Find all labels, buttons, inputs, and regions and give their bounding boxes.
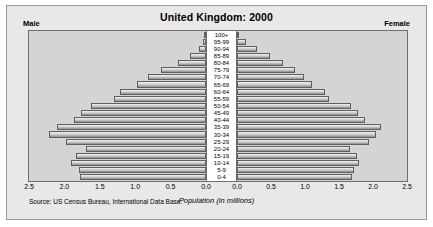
bar-female-10-14 <box>237 160 359 166</box>
x-tick-female-0.0: 0.0 <box>232 183 242 190</box>
pyramid-row: 65-69 <box>29 81 407 88</box>
bar-male-45-49 <box>81 110 206 116</box>
pyramid-row: 75-79 <box>29 67 407 74</box>
pyramid-row: 100+ <box>29 31 407 38</box>
age-group-label: 5-9 <box>206 167 237 173</box>
bar-male-35-39 <box>57 124 206 130</box>
pyramid-row: 90-94 <box>29 45 407 52</box>
pyramid-row: 50-54 <box>29 102 407 109</box>
bar-male-40-44 <box>74 117 206 123</box>
age-group-label: 50-54 <box>206 103 237 109</box>
screenshot-root: United Kingdom: 2000 Male Female 100+95-… <box>0 0 433 227</box>
age-group-label: 80-84 <box>206 60 237 66</box>
legend-label-female: Female <box>384 19 410 28</box>
bar-female-80-84 <box>237 60 283 66</box>
bar-female-5-9 <box>237 167 354 173</box>
age-group-label: 55-59 <box>206 96 237 102</box>
bar-male-50-54 <box>91 103 206 109</box>
legend-label-male: Male <box>23 19 40 28</box>
bar-female-70-74 <box>237 74 304 80</box>
bar-female-60-64 <box>237 89 325 95</box>
x-tick-male-2.0: 2.0 <box>60 183 70 190</box>
x-tick-female-1.0: 1.0 <box>300 183 310 190</box>
bar-male-25-29 <box>66 139 206 145</box>
bar-male-15-19 <box>76 153 206 159</box>
bar-female-50-54 <box>237 103 351 109</box>
pyramid-row: 45-49 <box>29 110 407 117</box>
age-group-label: 20-24 <box>206 146 237 152</box>
age-group-label: 25-29 <box>206 139 237 145</box>
bar-female-45-49 <box>237 110 358 116</box>
age-group-label: 75-79 <box>206 67 237 73</box>
bar-female-15-19 <box>237 153 357 159</box>
pyramid-row: 85-89 <box>29 52 407 59</box>
bar-male-80-84 <box>178 60 206 66</box>
bar-female-85-89 <box>237 53 270 59</box>
age-group-label: 95-99 <box>206 39 237 45</box>
pyramid-row: 25-29 <box>29 138 407 145</box>
age-group-label: 90-94 <box>206 46 237 52</box>
source-note: Source: US Census Bureau, International … <box>29 198 182 205</box>
bar-female-90-94 <box>237 46 257 52</box>
pyramid-row: 95-99 <box>29 38 407 45</box>
pyramid-rows: 100+95-9990-9485-8980-8475-7970-7465-696… <box>29 31 407 181</box>
age-group-label: 35-39 <box>206 124 237 130</box>
bar-female-40-44 <box>237 117 365 123</box>
bar-male-60-64 <box>120 89 206 95</box>
pyramid-row: 80-84 <box>29 60 407 67</box>
bar-male-65-69 <box>137 81 206 87</box>
x-tick-female-0.5: 0.5 <box>266 183 276 190</box>
pyramid-row: 70-74 <box>29 74 407 81</box>
bar-female-20-24 <box>237 146 350 152</box>
bar-male-30-34 <box>49 131 206 137</box>
age-group-label: 70-74 <box>206 74 237 80</box>
plot-area: 100+95-9990-9485-8980-8475-7970-7465-696… <box>28 30 408 182</box>
pyramid-row: 30-34 <box>29 131 407 138</box>
age-group-label: 65-69 <box>206 82 237 88</box>
bar-male-85-89 <box>190 53 206 59</box>
age-group-label: 10-14 <box>206 160 237 166</box>
pyramid-row: 20-24 <box>29 145 407 152</box>
x-tick-female-2.5: 2.5 <box>402 183 412 190</box>
pyramid-row: 60-64 <box>29 88 407 95</box>
bar-male-55-59 <box>114 96 206 102</box>
bar-male-75-79 <box>161 67 206 73</box>
chart-card: United Kingdom: 2000 Male Female 100+95-… <box>6 5 427 220</box>
age-group-label: 85-89 <box>206 53 237 59</box>
bar-female-95-99 <box>237 39 246 45</box>
bar-male-20-24 <box>86 146 206 152</box>
pyramid-row: 10-14 <box>29 160 407 167</box>
x-tick-female-2.0: 2.0 <box>368 183 378 190</box>
bar-male-0-4 <box>80 174 206 180</box>
bar-male-70-74 <box>148 74 206 80</box>
x-tick-male-1.5: 1.5 <box>95 183 105 190</box>
x-tick-male-2.5: 2.5 <box>24 183 34 190</box>
pyramid-row: 0-4 <box>29 174 407 181</box>
bar-female-25-29 <box>237 139 369 145</box>
x-axis: 2.52.01.51.00.50.00.00.51.01.52.02.5 <box>28 182 408 196</box>
x-tick-male-0.0: 0.0 <box>201 183 211 190</box>
x-tick-female-1.5: 1.5 <box>334 183 344 190</box>
age-group-label: 45-49 <box>206 110 237 116</box>
bar-female-100+ <box>237 32 239 38</box>
age-group-label: 40-44 <box>206 117 237 123</box>
bar-female-55-59 <box>237 96 329 102</box>
age-group-label: 30-34 <box>206 132 237 138</box>
pyramid-row: 15-19 <box>29 152 407 159</box>
bar-female-75-79 <box>237 67 295 73</box>
bar-female-35-39 <box>237 124 381 130</box>
age-group-label: 100+ <box>206 32 237 38</box>
bar-female-0-4 <box>237 174 352 180</box>
age-group-label: 60-64 <box>206 89 237 95</box>
pyramid-row: 35-39 <box>29 124 407 131</box>
page-title: United Kingdom: 2000 <box>7 11 426 23</box>
age-group-label: 15-19 <box>206 153 237 159</box>
pyramid-row: 40-44 <box>29 117 407 124</box>
pyramid-row: 55-59 <box>29 95 407 102</box>
bar-female-30-34 <box>237 131 376 137</box>
bar-male-90-94 <box>199 46 206 52</box>
pyramid-row: 5-9 <box>29 167 407 174</box>
bar-male-10-14 <box>71 160 206 166</box>
bar-female-65-69 <box>237 81 312 87</box>
age-group-label: 0-4 <box>206 174 237 180</box>
